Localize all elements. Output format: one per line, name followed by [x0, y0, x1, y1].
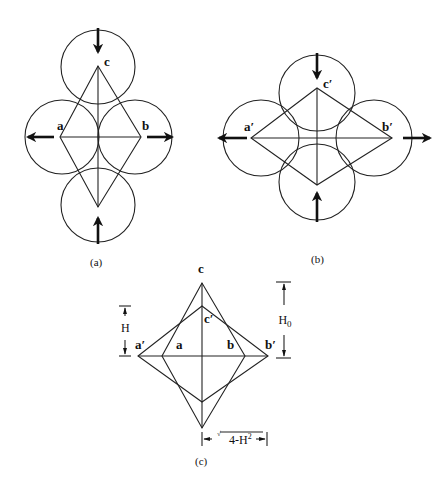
dimension-half-width: √ 4-H2: [202, 430, 267, 447]
dimension-h0-label: H0: [278, 313, 292, 329]
caption-c: (c): [195, 455, 208, 468]
panel-a: c a b (a): [25, 28, 172, 269]
deformed-rhombus: [138, 306, 268, 402]
label-a-prime: a′: [244, 119, 254, 134]
caption-a: (a): [90, 256, 103, 269]
dimension-h: H: [119, 306, 131, 356]
label-c: c: [198, 261, 204, 276]
svg-text:√: √: [217, 430, 221, 438]
label-c-prime: c′: [204, 311, 213, 326]
label-a-prime: a′: [135, 337, 145, 352]
dimension-h0: H0: [276, 282, 292, 358]
label-b: b: [227, 337, 234, 352]
label-b-prime: b′: [265, 337, 276, 352]
label-a: a: [57, 118, 64, 133]
panel-c: c c′ a′ a b b′ H H0: [119, 261, 292, 468]
label-c: c: [104, 54, 110, 69]
panel-b: c′ a′ b′ (b): [219, 53, 430, 266]
caption-b: (b): [311, 253, 324, 266]
label-b-prime: b′: [382, 119, 393, 134]
label-a: a: [176, 337, 183, 352]
label-b: b: [142, 118, 149, 133]
dimension-half-width-label: 4-H2: [229, 432, 252, 447]
dimension-h-label: H: [121, 321, 130, 335]
figure-canvas: c a b (a) c′ a′ b′ (b) c c′ a′ a b b′: [0, 0, 446, 490]
label-c-prime: c′: [323, 76, 332, 91]
rhombus: [251, 88, 392, 185]
